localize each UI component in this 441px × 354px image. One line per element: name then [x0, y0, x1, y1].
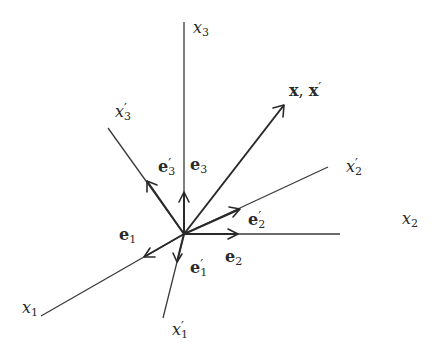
e2p-base: e	[248, 210, 258, 229]
x1-prime-axis-label: x′1	[172, 320, 188, 340]
x-label-a: x	[289, 81, 299, 100]
e3-label: e3	[190, 157, 207, 175]
coordinate-rotation-diagram	[0, 0, 441, 354]
x-vector-label: x, x′	[289, 81, 318, 99]
e3-base: e	[190, 155, 200, 174]
e2-label: e2	[225, 249, 242, 267]
x3p-sub: 3	[124, 110, 131, 123]
x3-sub: 3	[202, 26, 209, 39]
e2-prime-label: e′2	[248, 210, 265, 230]
x2-prime-axis-label: x′2	[346, 157, 362, 177]
e3p-base: e	[158, 157, 168, 176]
x1-axis-label: x1	[22, 300, 38, 318]
e1-sub: 1	[129, 233, 136, 246]
x3-prime-axis-label: x′3	[115, 102, 131, 122]
x2-base: x	[402, 209, 411, 228]
x3-base: x	[193, 18, 202, 37]
e1-prime-label: e′1	[190, 258, 207, 278]
e2-sub: 2	[235, 255, 242, 268]
e3-prime-vector	[147, 181, 184, 234]
x-label-b: x	[309, 81, 319, 100]
x3p-base: x	[115, 102, 124, 121]
e3-sub: 3	[200, 163, 207, 176]
x1-sub: 1	[31, 306, 38, 319]
e1p-sub: 1	[200, 266, 207, 279]
x2p-base: x	[346, 157, 355, 176]
x-label-prime: ′	[318, 80, 321, 95]
e3p-sub: 3	[168, 165, 175, 178]
x3-axis-label: x3	[193, 20, 209, 38]
e1-vector	[144, 234, 184, 257]
x2p-sub: 2	[355, 165, 362, 178]
x1p-base: x	[172, 320, 181, 339]
e1-label: e1	[119, 227, 136, 245]
x1-base: x	[22, 298, 31, 317]
e1p-base: e	[190, 258, 200, 277]
e2p-sub: 2	[258, 218, 265, 231]
x2-sub: 2	[411, 217, 418, 230]
e2-base: e	[225, 247, 235, 266]
e3-prime-label: e′3	[158, 157, 175, 177]
x2-axis-label: x2	[402, 211, 418, 229]
x-label-separator: ,	[299, 81, 309, 100]
e1-base: e	[119, 225, 129, 244]
x1p-sub: 1	[181, 328, 188, 341]
